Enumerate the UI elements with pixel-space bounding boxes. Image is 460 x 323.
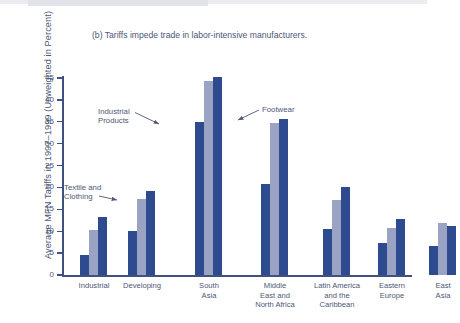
bar-group-5 xyxy=(378,219,405,275)
y-tick-label-10: 10 xyxy=(36,227,54,235)
annotation-industrial-products: Industrial Products xyxy=(98,107,130,126)
bar xyxy=(378,243,387,275)
bar xyxy=(98,217,107,275)
annotation-industrial-products-line2: Products xyxy=(98,116,130,125)
y-tick-label-0: 0 xyxy=(36,271,54,279)
bar xyxy=(447,226,456,275)
bar xyxy=(213,77,222,275)
bar xyxy=(279,119,288,275)
bar-group-3 xyxy=(261,119,288,275)
bar xyxy=(128,231,137,275)
y-tick-label-40: 40 xyxy=(36,96,54,104)
bar xyxy=(80,255,89,275)
bar xyxy=(270,123,279,275)
bar-group-0 xyxy=(80,217,107,275)
x-category-label-line: East xyxy=(418,281,460,291)
x-category-label-1: Developing xyxy=(110,281,174,291)
bar xyxy=(204,81,213,275)
bar-group-6 xyxy=(429,223,456,275)
scan-artifact-top-secondary xyxy=(28,0,208,6)
bar-group-2 xyxy=(195,77,222,275)
y-tick-label-5: 5 xyxy=(36,249,54,257)
annotation-textile-clothing-line1: Textile and xyxy=(64,183,101,192)
x-category-label-line: Developing xyxy=(110,281,174,291)
y-tick-label-45: 45 xyxy=(36,74,54,82)
y-tick-label-30: 30 xyxy=(36,140,54,148)
bar-group-4 xyxy=(323,187,350,275)
y-tick-label-15: 15 xyxy=(36,205,54,213)
annotation-textile-clothing-line2: Clothing xyxy=(64,192,101,201)
bar xyxy=(195,122,204,275)
bar xyxy=(429,246,438,275)
x-category-label-5: EasternEurope xyxy=(364,281,420,300)
x-category-label-line: Caribbean xyxy=(299,300,375,310)
annotation-industrial-products-line1: Industrial xyxy=(98,107,130,116)
y-tick-label-20: 20 xyxy=(36,183,54,191)
bar xyxy=(323,229,332,275)
bar xyxy=(341,187,350,275)
annotation-textile-clothing: Textile and Clothing xyxy=(64,183,101,202)
bar xyxy=(146,191,155,275)
y-tick-label-25: 25 xyxy=(36,162,54,170)
bar xyxy=(89,230,98,275)
bar xyxy=(438,223,447,275)
bar xyxy=(387,228,396,275)
x-category-label-line: South xyxy=(180,281,238,291)
y-tick-label-35: 35 xyxy=(36,118,54,126)
x-category-label-line: Europe xyxy=(364,291,420,301)
x-category-label-line: Asia xyxy=(180,291,238,301)
bar-group-1 xyxy=(128,191,155,275)
bar xyxy=(261,184,270,275)
bar xyxy=(332,200,341,275)
bar xyxy=(396,219,405,275)
x-category-label-line: Eastern xyxy=(364,281,420,291)
annotation-footwear: Footwear xyxy=(262,105,295,114)
y-axis-title: Average MFN Tariffs in 1997–1999 (Unweig… xyxy=(43,10,53,260)
x-category-label-6: EastAsia xyxy=(418,281,460,300)
bar xyxy=(137,199,146,275)
x-category-label-2: SouthAsia xyxy=(180,281,238,300)
x-axis-line xyxy=(62,275,412,277)
chart-title: (b) Tariffs impede trade in labor-intens… xyxy=(92,30,307,40)
x-category-label-line: Asia xyxy=(418,291,460,301)
